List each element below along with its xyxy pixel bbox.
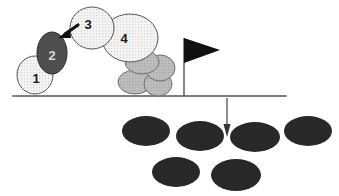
- flag-marker: [184, 38, 220, 96]
- diagram-canvas: 1 2 3 4: [0, 0, 339, 196]
- dark-blob-4: [284, 116, 332, 146]
- diagram-svg: 1 2 3 4: [0, 0, 339, 196]
- flag-banner-icon: [184, 38, 220, 63]
- drop-arrow: [224, 98, 231, 137]
- dark-blob-5: [152, 157, 200, 187]
- blob-4-label: 4: [120, 31, 128, 46]
- dark-blob-2: [176, 121, 224, 151]
- blob-3-label: 3: [84, 17, 91, 32]
- dark-blob-3: [230, 122, 280, 152]
- blob-2-label: 2: [48, 48, 55, 63]
- drop-arrow-head: [224, 124, 231, 137]
- blob-3: [70, 7, 114, 49]
- dark-blob-1: [122, 116, 170, 146]
- impact-arrow-head: [58, 29, 71, 38]
- blob-1-label: 1: [32, 71, 39, 86]
- dark-blob-6: [211, 159, 261, 191]
